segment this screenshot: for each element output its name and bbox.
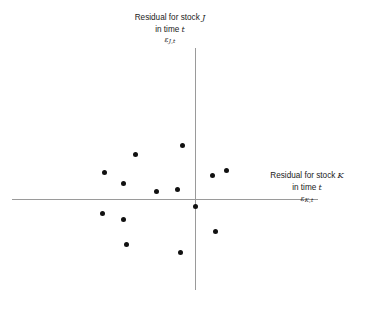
data-point — [100, 211, 105, 216]
data-point — [224, 168, 229, 173]
data-point — [175, 187, 180, 192]
data-point — [178, 250, 183, 255]
data-point — [210, 173, 215, 178]
data-point — [213, 229, 218, 234]
data-point — [193, 204, 198, 209]
data-point — [121, 181, 126, 186]
data-point — [180, 143, 185, 148]
data-point — [124, 242, 129, 247]
data-point — [102, 170, 107, 175]
data-points-layer — [0, 0, 376, 323]
data-point — [133, 152, 138, 157]
data-point — [154, 189, 159, 194]
data-point — [121, 217, 126, 222]
scatter-plot-figure: Residual for stock J in time t εJ,t Resi… — [0, 0, 376, 323]
